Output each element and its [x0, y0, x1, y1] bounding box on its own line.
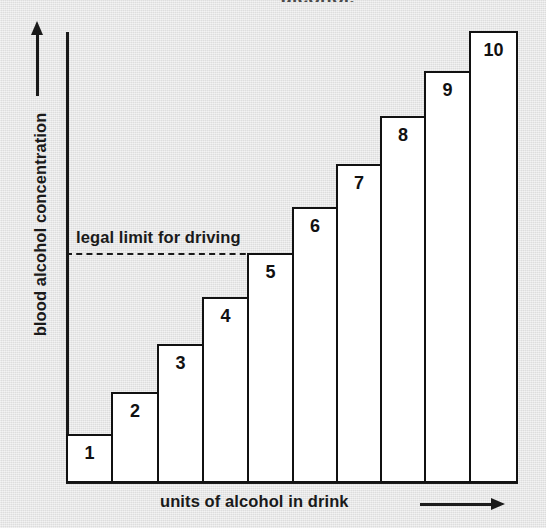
bar-label: 3 [159, 352, 202, 374]
legal-limit-label: legal limit for driving [76, 228, 241, 247]
x-axis-label: units of alcohol in drink [160, 492, 349, 511]
legal-limit-line-dashed [66, 253, 256, 255]
bar-1: 1 [66, 434, 113, 483]
bar-6: 6 [292, 207, 338, 483]
bar-5: 5 [247, 253, 294, 483]
bar-label: 5 [249, 261, 292, 283]
bar-label: 2 [113, 400, 157, 422]
bar-label: 1 [68, 442, 111, 464]
bar-label: 7 [338, 172, 380, 194]
bar-3: 3 [157, 344, 204, 483]
chart-plot-area: blood alcohol concentration 1 2 3 4 5 6 … [0, 0, 546, 528]
bar-label: 4 [204, 305, 247, 327]
bar-4: 4 [202, 297, 249, 483]
bar-label: 10 [471, 39, 516, 61]
bar-7: 7 [336, 164, 382, 483]
bar-10: 10 [469, 31, 518, 483]
x-axis-arrow-right-icon [420, 503, 492, 506]
bar-label: 9 [426, 79, 469, 101]
bar-series: 1 2 3 4 5 6 7 8 9 [0, 0, 546, 528]
bar-label: 8 [382, 124, 424, 146]
bar-8: 8 [380, 116, 426, 483]
bar-label: 6 [294, 215, 336, 237]
bar-9: 9 [424, 71, 471, 483]
bar-2: 2 [111, 392, 159, 483]
chart-page: alcohol. blood alcohol concentration 1 2… [0, 0, 546, 528]
